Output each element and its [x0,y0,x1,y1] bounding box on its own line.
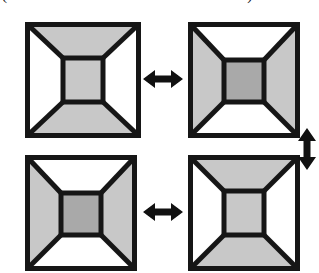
figure-bottom-left [25,155,137,271]
figure-top-left [25,22,141,138]
cropped-caption-sliver: (FIGURE CAPTION CROPPED) [0,0,319,11]
face-center [61,193,101,235]
perspective-square-bottom-left [25,155,137,271]
face-center [63,58,103,102]
perspective-square-top-left [25,22,141,138]
face-center [224,191,264,235]
perspective-square-top-right [188,22,300,138]
arrow-right-vertical [296,128,318,170]
face-center [224,60,264,102]
figure-bottom-right [188,155,300,271]
arrow-top-horizontal [143,68,183,90]
figure-canvas: (FIGURE CAPTION CROPPED) [0,0,319,273]
double-headed-horizontal-arrow-icon [143,68,183,90]
double-headed-vertical-arrow-icon [296,128,318,170]
perspective-square-bottom-right [188,155,300,271]
arrow-bottom-horizontal [143,201,183,223]
double-headed-horizontal-arrow-icon [143,201,183,223]
figure-top-right [188,22,300,138]
